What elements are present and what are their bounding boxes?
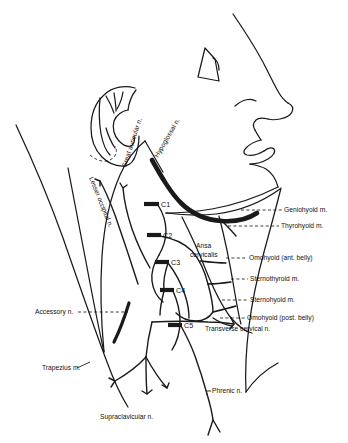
label-phrenic: Phrenic n. bbox=[212, 387, 242, 394]
label-supraclavicular: Supraclavicular n. bbox=[100, 413, 153, 421]
label-trapezius: Trapezius m. bbox=[42, 364, 81, 372]
root-label-c2: C2 bbox=[163, 231, 172, 240]
label-ansa-line2: cervicalis bbox=[190, 251, 218, 258]
label-sternohyoid: Sternohyoid m. bbox=[250, 296, 295, 304]
anatomy-diagram-svg: C1 C2 C3 C4 C5 Geniohyoid m. Thyrohyoid … bbox=[0, 0, 348, 443]
label-sternothyroid: Sternothyroid m. bbox=[250, 275, 299, 283]
anatomy-figure: C1 C2 C3 C4 C5 Geniohyoid m. Thyrohyoid … bbox=[0, 0, 348, 443]
label-omohyoid-ant: Omohyoid (ant. belly) bbox=[249, 254, 313, 262]
root-label-c4: C4 bbox=[176, 286, 185, 295]
label-thyrohyoid: Thyrohyoid m. bbox=[281, 222, 324, 230]
root-label-c5: C5 bbox=[184, 321, 193, 330]
root-label-c1: C1 bbox=[161, 200, 170, 209]
label-omohyoid-post: Omohyoid (post. belly) bbox=[247, 314, 314, 322]
label-geniohyoid: Geniohyoid m. bbox=[284, 206, 327, 214]
label-transverse-cervical: Transverse cervical n. bbox=[205, 325, 270, 332]
label-ansa-line1: Ansa bbox=[196, 242, 212, 249]
root-label-c3: C3 bbox=[171, 258, 180, 267]
label-accessory: Accessory n. bbox=[35, 308, 73, 316]
